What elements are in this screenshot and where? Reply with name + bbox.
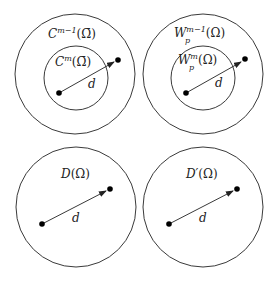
point-b bbox=[115, 57, 121, 63]
inner-space-subscript: p bbox=[189, 63, 194, 72]
space-label: D(Ω) bbox=[60, 167, 90, 181]
point-a bbox=[166, 221, 172, 227]
outer-space-subscript: p bbox=[185, 36, 190, 45]
distance-label: d bbox=[72, 211, 80, 225]
point-a bbox=[39, 221, 45, 227]
function-spaces-diagram: Cm−1(Ω̄) Cm(Ω̄) d Wm−1(Ω) p Wm(Ω) p d D(… bbox=[0, 0, 277, 282]
outer-space-label: Cm−1(Ω̄) bbox=[48, 26, 96, 41]
distance-label: d bbox=[88, 77, 96, 91]
point-b bbox=[234, 186, 240, 192]
space-circle bbox=[16, 147, 136, 267]
distance-label: d bbox=[199, 211, 207, 225]
panel-top-left: Cm−1(Ω̄) Cm(Ω̄) d bbox=[15, 14, 135, 134]
space-circle bbox=[143, 147, 263, 267]
outer-space-label: Wm−1(Ω) bbox=[174, 25, 225, 40]
point-b bbox=[242, 56, 248, 62]
panel-bottom-left: D(Ω) d bbox=[16, 147, 136, 267]
panel-bottom-right: D′(Ω) d bbox=[143, 147, 263, 267]
space-label: D′(Ω) bbox=[185, 167, 218, 181]
point-a bbox=[183, 90, 189, 96]
point-b bbox=[107, 186, 113, 192]
point-a bbox=[56, 90, 62, 96]
inner-space-label: Wm(Ω) bbox=[178, 52, 217, 67]
inner-space-label: Cm(Ω̄) bbox=[55, 54, 91, 69]
distance-label: d bbox=[215, 76, 223, 90]
panel-top-right: Wm−1(Ω) p Wm(Ω) p d bbox=[143, 14, 263, 134]
